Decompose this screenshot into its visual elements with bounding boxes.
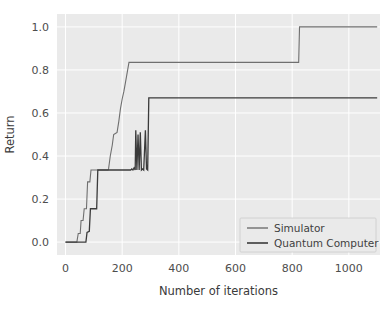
x-tick-label: 600 bbox=[225, 262, 246, 275]
legend-label-quantum-computer: Quantum Computer bbox=[274, 237, 379, 249]
x-tick-label: 0 bbox=[62, 262, 69, 275]
y-tick-label: 0.6 bbox=[32, 107, 50, 120]
x-tick-label: 1000 bbox=[335, 262, 363, 275]
y-tick-label: 0.2 bbox=[32, 193, 50, 206]
x-tick-labels: 02004006008001000 bbox=[62, 262, 363, 275]
y-tick-labels: 0.00.20.40.60.81.0 bbox=[32, 21, 50, 249]
x-axis-label: Number of iterations bbox=[159, 284, 278, 298]
x-tick-label: 400 bbox=[168, 262, 189, 275]
chart-figure: 02004006008001000 0.00.20.40.60.81.0 Num… bbox=[0, 0, 390, 313]
chart-legend[interactable]: Simulator Quantum Computer bbox=[240, 218, 379, 252]
y-tick-label: 0.4 bbox=[32, 150, 50, 163]
y-tick-label: 1.0 bbox=[32, 21, 50, 34]
x-tick-label: 800 bbox=[282, 262, 303, 275]
y-tick-label: 0.0 bbox=[32, 236, 50, 249]
chart-canvas: 02004006008001000 0.00.20.40.60.81.0 Num… bbox=[0, 0, 390, 313]
y-tick-label: 0.8 bbox=[32, 64, 50, 77]
legend-label-simulator: Simulator bbox=[274, 222, 325, 234]
x-tick-label: 200 bbox=[112, 262, 133, 275]
y-axis-label: Return bbox=[3, 115, 17, 153]
